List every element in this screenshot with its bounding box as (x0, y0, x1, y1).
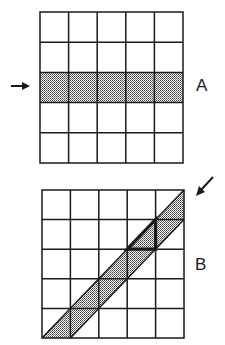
label-a: A (196, 76, 207, 96)
panel-b (42, 177, 213, 338)
arrow-right-icon (11, 82, 30, 90)
panel-a (11, 12, 183, 163)
arrow-down-left-icon (196, 177, 213, 196)
diagram-canvas (0, 0, 225, 345)
shaded-row (40, 72, 183, 102)
label-b: B (195, 255, 206, 275)
diagonal-edges (42, 190, 184, 338)
